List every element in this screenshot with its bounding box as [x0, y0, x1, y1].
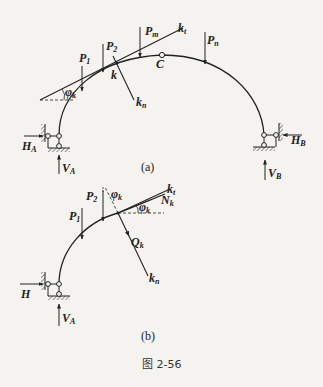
reaction-label-vb: VB — [268, 166, 282, 181]
panel-b: kt Nk φk φk Qk kn P1 P2 — [20, 182, 176, 343]
shear-force-arrow — [118, 213, 129, 236]
load-label-pm: Pm — [145, 24, 159, 39]
reaction-label-va: VA — [62, 311, 76, 326]
angle-label-right: φk — [139, 200, 150, 215]
hinge-label-c: C — [156, 57, 165, 71]
reaction-label-ha: HA — [21, 139, 37, 154]
section-point-k — [116, 62, 119, 65]
reaction-label-va: VA — [62, 161, 76, 176]
load-label-p1: P1 — [69, 209, 80, 224]
left-hinged-support — [41, 272, 70, 300]
reaction-label-hb: HB — [290, 133, 306, 148]
angle-label: φk — [65, 85, 76, 100]
load-label-p2: P2 — [106, 39, 117, 54]
reaction-label-h: H — [20, 287, 31, 301]
three-hinged-arch-figure: C kt φk kn k P1 P2 Pm Pn — [0, 0, 323, 387]
panel-b-label: (b) — [141, 329, 155, 343]
load-label-p2: P2 — [86, 189, 97, 204]
panel-a-label: (a) — [141, 160, 154, 174]
normal-label: kn — [136, 95, 147, 110]
shear-force-label: Qk — [131, 235, 144, 250]
panel-a: C kt φk kn k P1 P2 Pm Pn — [21, 21, 306, 181]
left-hinged-support — [41, 124, 70, 152]
right-hinged-support — [253, 123, 283, 151]
tangent-label: kt — [178, 21, 187, 36]
angle-label-top: φk — [111, 187, 122, 202]
section-label-k: k — [111, 68, 117, 82]
load-label-pn: Pn — [207, 33, 219, 48]
load-label-p1: P1 — [79, 51, 90, 66]
normal-label: kn — [149, 271, 160, 286]
figure-caption: 图 2-56 — [142, 358, 181, 371]
